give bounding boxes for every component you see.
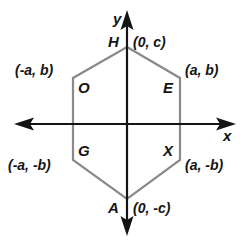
- vertex-label-g: G: [78, 143, 90, 158]
- vertex-label-h: H: [108, 34, 119, 49]
- vertex-label-x: X: [163, 143, 173, 158]
- coordinate-label-x: (a, -b): [185, 158, 223, 172]
- x-axis-label: x: [223, 128, 231, 143]
- hexagon-coordinate-diagram: y x H E X A G O (0, c) (a, b) (a, -b) (0…: [0, 0, 247, 246]
- coordinate-label-o: (-a, b): [15, 63, 53, 77]
- vertex-label-e: E: [163, 80, 173, 95]
- y-axis-label: y: [113, 11, 121, 26]
- coordinate-label-g: (-a, -b): [8, 158, 51, 172]
- vertex-label-a: A: [108, 200, 119, 215]
- vertex-label-o: O: [78, 80, 90, 95]
- diagram-canvas: [0, 0, 247, 246]
- coordinate-label-a: (0, -c): [133, 201, 170, 215]
- coordinate-label-e: (a, b): [185, 63, 218, 77]
- coordinate-label-h: (0, c): [133, 35, 166, 49]
